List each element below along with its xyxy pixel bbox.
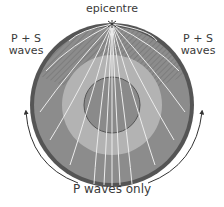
p-s-waves-right-label: P + Swaves [176, 33, 220, 57]
p-waves-only-label: P waves only [62, 183, 162, 195]
p-s-waves-left-label: P + Swaves [4, 33, 48, 57]
epicentre-label: epicentre [82, 3, 142, 15]
